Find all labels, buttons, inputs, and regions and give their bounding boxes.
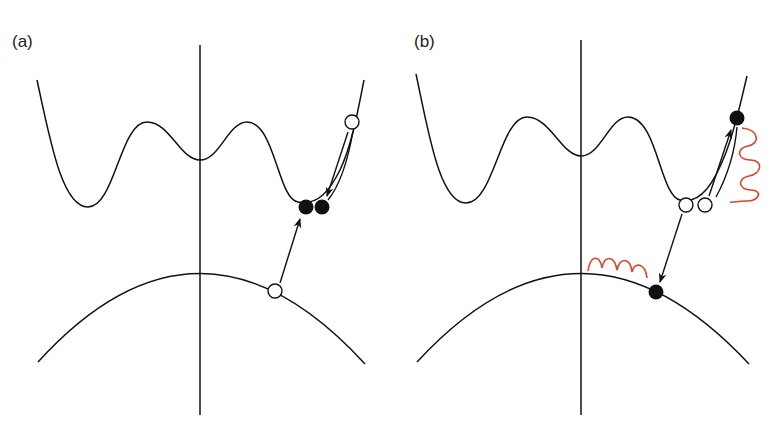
panel-a-electron-filled <box>315 200 330 215</box>
panel-a-hole-open <box>345 115 359 129</box>
panel-b <box>416 40 760 415</box>
panel-b-electron-filled <box>730 111 745 126</box>
panel-b-hole-open <box>679 198 693 212</box>
panel-a-lower-band-curve <box>38 273 365 364</box>
figure: (a) (b) <box>0 0 778 434</box>
panel-b-electron-filled <box>649 285 664 300</box>
panel-a-hole-open <box>268 284 282 298</box>
panel-b-return-path <box>716 127 737 197</box>
panel-a-excitation-arrow <box>280 219 300 283</box>
panel-a-return-path <box>328 131 353 200</box>
panel-b-lower-band-curve <box>417 273 749 364</box>
panel-b-hole-open <box>698 198 712 212</box>
panel-b-excitation-arrow <box>709 130 731 196</box>
panel-a-electron-filled <box>299 200 314 215</box>
diagram-canvas <box>0 0 778 434</box>
panel-b-phonon-wave-upper <box>730 128 760 202</box>
panel-b-decay-arrow <box>660 214 682 282</box>
panel-a <box>37 45 365 415</box>
